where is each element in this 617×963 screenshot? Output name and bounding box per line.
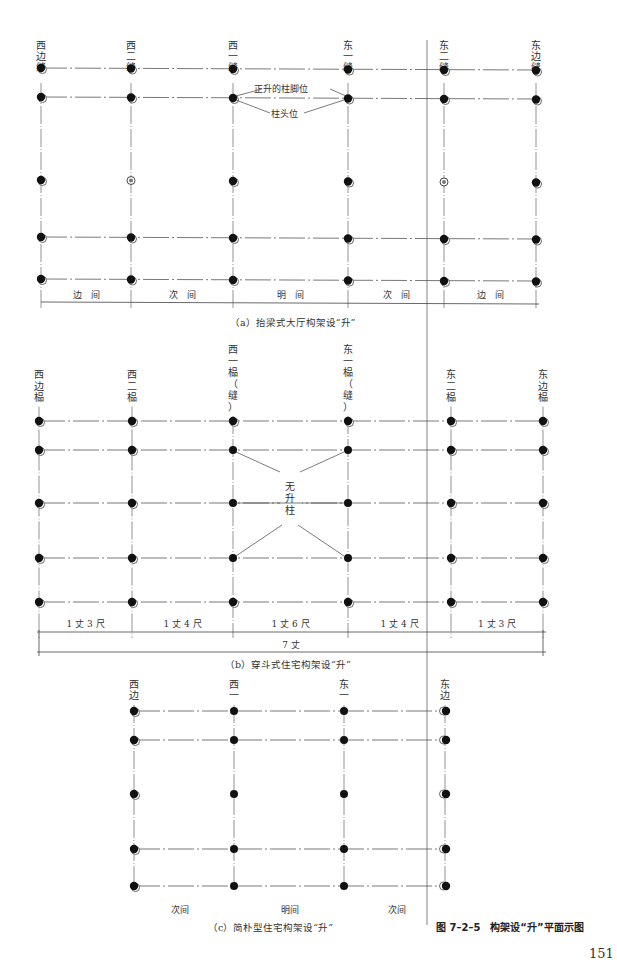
column-label-char: 边 xyxy=(129,690,139,701)
bay-label: 边 间 xyxy=(73,289,100,300)
column-foot-dot-icon xyxy=(344,417,352,425)
column-foot-dot-icon xyxy=(127,64,135,72)
column-foot-dot-icon xyxy=(229,276,237,284)
leader-line xyxy=(298,525,344,556)
column-foot-dot-icon xyxy=(229,94,237,102)
column-label-char: 二 xyxy=(439,51,449,62)
column-foot-dot-icon xyxy=(447,554,455,562)
column-foot-dot-icon xyxy=(532,235,540,243)
column-label-char: 榀 xyxy=(538,391,548,403)
column-foot-dot-icon xyxy=(447,598,455,606)
panel-a-caption: （a）抬梁式大厅构架设“升” xyxy=(230,317,356,328)
column-foot-dot-icon xyxy=(130,707,138,715)
column-label-char: 东 xyxy=(343,39,353,51)
column-label-char: 西 xyxy=(36,40,46,51)
column-foot-dot-icon xyxy=(442,790,450,798)
panel-b-frame-plan: 西边榀西二榀西一榀（缝）东一榀（缝）东二榀东边榀无升柱1 丈 3 尺1 丈 4 … xyxy=(34,343,549,656)
column-no-rise-icon xyxy=(229,554,237,562)
column-dot-icon xyxy=(230,707,238,715)
bay-label: 次间 xyxy=(171,904,189,915)
column-foot-dot-icon xyxy=(35,598,43,606)
column-label-char: 榀 xyxy=(34,391,44,403)
column-dot-icon xyxy=(340,736,348,744)
column-foot-dot-icon xyxy=(344,234,352,242)
column-foot-dot-icon xyxy=(128,499,136,507)
dimension-line xyxy=(41,302,539,304)
column-dot-icon xyxy=(340,882,348,890)
bay-dimension-label: 1 丈 3 尺 xyxy=(478,619,516,629)
column-label-char: 西 xyxy=(127,369,137,380)
beam-line xyxy=(41,279,536,281)
column-foot-dot-icon xyxy=(539,417,547,425)
column-foot-dot-icon xyxy=(37,93,45,101)
annotation-head-label: 柱头位 xyxy=(271,108,298,119)
column-foot-dot-icon xyxy=(127,93,135,101)
panel-a-frame-plan: 西边缝西二缝西一缝东一缝东二缝东边缝正升的柱脚位柱头位边 间次 间明 间次 间边… xyxy=(36,39,542,308)
panel-c-caption: （c）简朴型住宅构架设“升” xyxy=(208,922,333,933)
annotation-no-rise-label: 升 xyxy=(285,493,295,504)
bay-dimension-label: 1 丈 6 尺 xyxy=(271,619,309,629)
column-label-char: （ xyxy=(228,379,238,390)
panel-b-caption: （b）穿斗式住宅构架设“升” xyxy=(225,659,351,670)
page-number: 151 xyxy=(589,946,614,961)
column-foot-dot-icon xyxy=(442,845,450,853)
column-label-char: 榀 xyxy=(446,391,456,403)
column-label-char: 缝 xyxy=(228,389,238,401)
column-foot-dot-icon xyxy=(532,277,540,285)
column-label-char: 一 xyxy=(343,51,353,62)
column-foot-dot-icon xyxy=(130,736,138,744)
column-label-char: 边 xyxy=(34,381,44,392)
column-label-char: 东 xyxy=(446,368,456,380)
column-foot-dot-icon xyxy=(127,233,135,241)
column-foot-dot-icon xyxy=(229,65,237,73)
annotation-no-rise-label: 柱 xyxy=(285,504,295,516)
column-label-char: 边 xyxy=(538,381,548,392)
column-foot-dot-icon xyxy=(229,417,237,425)
column-foot-dot-icon xyxy=(229,177,237,185)
figure-title: 图 7–2–5 构架设“升”平面示图 xyxy=(436,921,584,933)
panel-c-frame-plan: 西边西一东一东边次间明间次间 xyxy=(129,678,450,915)
column-dot-icon xyxy=(340,845,348,853)
column-foot-dot-icon xyxy=(532,66,540,74)
column-label-char: 东 xyxy=(531,39,541,51)
column-foot-dot-icon xyxy=(130,845,138,853)
column-label-char: 一 xyxy=(228,51,238,62)
column-foot-dot-icon xyxy=(442,736,450,744)
column-hatched-core xyxy=(129,179,133,183)
column-label-char: 二 xyxy=(127,381,137,392)
bay-label: 明间 xyxy=(281,904,299,915)
column-label-char: 西 xyxy=(228,344,238,355)
column-foot-dot-icon xyxy=(447,499,455,507)
column-foot-dot-icon xyxy=(440,66,448,74)
column-no-rise-icon xyxy=(344,554,352,562)
column-dot-icon xyxy=(230,790,238,798)
column-no-rise-icon xyxy=(229,499,237,507)
column-foot-dot-icon xyxy=(539,499,547,507)
column-foot-dot-icon xyxy=(229,234,237,242)
leader-line xyxy=(236,452,280,472)
column-label-char: 东 xyxy=(439,39,449,51)
column-foot-dot-icon xyxy=(442,707,450,715)
column-label-char: 一 xyxy=(228,356,238,367)
bay-label: 边 间 xyxy=(477,289,504,300)
leader-line xyxy=(236,100,270,113)
column-no-rise-icon xyxy=(344,499,352,507)
column-label-char: 西 xyxy=(34,369,44,380)
column-label-char: 西 xyxy=(129,679,139,690)
column-label-char: 榀 xyxy=(343,366,353,378)
column-label-char: 一 xyxy=(339,690,349,701)
column-label-char: 边 xyxy=(440,690,450,701)
column-foot-dot-icon xyxy=(539,598,547,606)
bay-label: 次 间 xyxy=(169,289,196,300)
column-foot-dot-icon xyxy=(344,598,352,606)
column-label-char: 二 xyxy=(446,381,456,392)
column-foot-dot-icon xyxy=(35,446,43,454)
column-label-char: 东 xyxy=(343,343,353,355)
column-label-char: 西 xyxy=(229,679,239,690)
bay-label: 次间 xyxy=(388,904,406,915)
column-foot-dot-icon xyxy=(447,417,455,425)
bay-label: 次 间 xyxy=(383,289,410,300)
column-label-char: 边 xyxy=(531,51,541,62)
annotation-foot-label: 正升的柱脚位 xyxy=(254,83,308,94)
column-foot-dot-icon xyxy=(35,417,43,425)
